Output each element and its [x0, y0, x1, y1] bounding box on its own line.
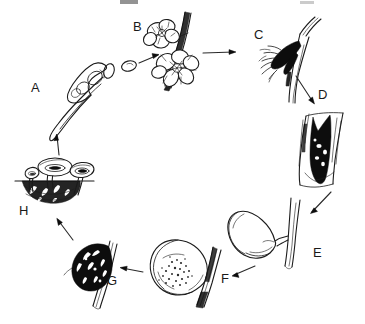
arrow-e-to-f: [232, 266, 255, 277]
arrow-d-to-e: [311, 192, 332, 214]
stage-label-d: D: [318, 88, 328, 101]
arrow-g-to-h: [57, 218, 73, 240]
stage-label-f: F: [221, 272, 229, 285]
stage-label-h: H: [19, 204, 29, 217]
arrow-a-to-b: [139, 54, 159, 63]
illustration-apothecia: [15, 158, 95, 203]
stage-label-a: A: [31, 81, 40, 94]
stage-label-b: B: [133, 20, 142, 33]
stage-label-e: E: [313, 246, 322, 259]
arrow-b-to-c: [203, 50, 236, 55]
illustration-germinating-spore: [50, 63, 107, 141]
arrow-h-to-a: [54, 134, 59, 155]
illustration-rotting-fruit: [150, 240, 221, 308]
illustration-blighted-blossom: [259, 17, 321, 103]
illustration-airborne-spores: [102, 59, 138, 79]
arrow-f-to-g: [120, 266, 143, 272]
stage-label-c: C: [254, 28, 264, 41]
illustration-young-fruit: [228, 198, 300, 269]
blossom-upper: [141, 18, 182, 49]
arrow-c-to-d: [296, 76, 315, 104]
stage-label-g: G: [107, 274, 118, 287]
illustration-infected-blossoms: [141, 12, 202, 91]
illustration-twig-canker: [299, 113, 343, 188]
cycle-illustration: [0, 0, 365, 324]
disease-cycle-diagram: A B C D E F G H: [0, 0, 365, 324]
